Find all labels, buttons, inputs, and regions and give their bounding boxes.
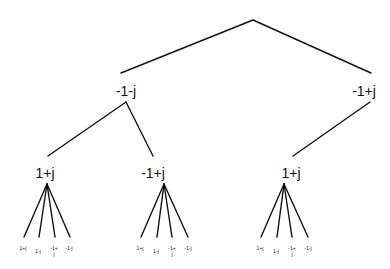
leaf-2-0: 1+j (256, 245, 264, 251)
leaf-2-2: -1+j (288, 245, 296, 257)
leaf-1-0: 1+j (136, 245, 144, 251)
node-l2-2: 1+j (281, 165, 300, 181)
node-l1-0: -1-j (116, 83, 136, 99)
edge-root-l1-1 (253, 20, 371, 73)
leaf-0-2: -1+j (50, 245, 58, 257)
leaf-0-1: 1-j (34, 248, 42, 254)
node-l2-1: -1+j (141, 165, 165, 181)
leaf-1-3: -1-j (184, 245, 192, 251)
leaf-0-3: -1-j (65, 245, 73, 251)
leaf-2-3: -1-j (304, 245, 312, 251)
edge-root-l1-0 (121, 20, 253, 73)
edge-l1-0-l2-0 (48, 102, 126, 156)
leaf-0-0: 1+j (19, 245, 27, 251)
edge-l1-1-l2-2 (293, 102, 370, 156)
leaf-1-1: 1-j (152, 248, 160, 254)
node-l2-0: 1+j (35, 165, 54, 181)
edge-l1-0-l2-1 (126, 102, 153, 156)
tree-edges (0, 0, 390, 269)
leaf-2-1: 1-j (272, 248, 280, 254)
node-l1-1: -1+j (352, 83, 376, 99)
leaf-1-2: -1+j (168, 245, 176, 257)
